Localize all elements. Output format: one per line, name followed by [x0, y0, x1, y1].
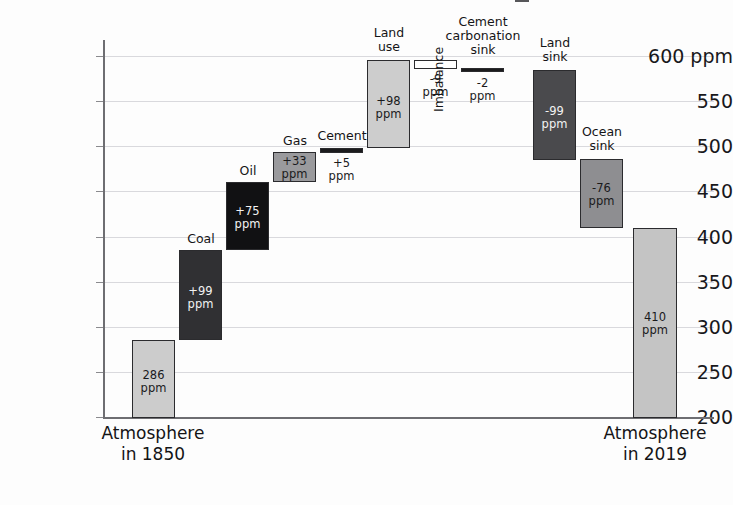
x-axis-line	[103, 417, 714, 419]
plot-area: 600 ppm 550 500 450 400 350 300 250 200 …	[0, 0, 733, 505]
ytick-label-500: 500	[647, 135, 733, 157]
bar-atmosphere-2019[interactable]: 410 ppm	[633, 228, 677, 418]
bar-atmosphere-1850[interactable]: 286 ppm	[132, 340, 175, 418]
bar-land-sink[interactable]: -99 ppm	[533, 70, 576, 160]
waterfall-chart: 600 ppm 550 500 450 400 350 300 250 200 …	[0, 0, 733, 505]
bar-label-oil: Oil	[220, 164, 276, 178]
category-label-atmosphere-1850: Atmosphere in 1850	[83, 423, 223, 465]
bar-value-land-use: +98 ppm	[376, 95, 402, 121]
ytick-label-550: 550	[647, 90, 733, 112]
bar-oil[interactable]: +75 ppm	[226, 182, 269, 250]
bar-coal[interactable]: +99 ppm	[179, 250, 222, 340]
bar-label-land-use: Land use	[360, 26, 418, 54]
bar-value-gas: +33 ppm	[282, 155, 308, 181]
bar-cement-carbonation-sink[interactable]: -2 ppm	[461, 68, 504, 72]
bar-label-coal: Coal	[172, 232, 230, 246]
bar-cement[interactable]: +5 ppm	[320, 148, 363, 153]
bar-value-cement: +5 ppm	[329, 157, 355, 183]
bar-label-cement-carbonation-sink: Cement carbonation sink	[437, 15, 529, 57]
bar-label-cement: Cement	[310, 129, 374, 143]
bar-value-land-sink: -99 ppm	[542, 105, 568, 131]
gridline-600	[104, 56, 714, 57]
bar-value-oil: +75 ppm	[235, 205, 261, 231]
bar-label-land-sink: Land sink	[526, 36, 584, 64]
ytick-label-450: 450	[647, 180, 733, 202]
category-label-atmosphere-2019: Atmosphere in 2019	[585, 423, 725, 465]
y-axis-line	[103, 40, 105, 418]
bar-value-atmosphere-2019: 410 ppm	[642, 311, 668, 337]
bar-value-ocean-sink: -76 ppm	[589, 182, 615, 208]
ytick-label-600: 600 ppm	[640, 45, 733, 67]
gridline-250	[104, 372, 714, 373]
bar-label-ocean-sink: Ocean sink	[573, 125, 631, 153]
bar-land-use[interactable]: +98 ppm	[367, 60, 410, 148]
bar-value-cement-carbonation-sink: -2 ppm	[470, 77, 496, 103]
bar-value-coal: +99 ppm	[188, 285, 214, 311]
bar-gas[interactable]: +33 ppm	[273, 152, 316, 182]
bar-ocean-sink[interactable]: -76 ppm	[580, 159, 623, 228]
bar-value-atmosphere-1850: 286 ppm	[141, 369, 167, 395]
